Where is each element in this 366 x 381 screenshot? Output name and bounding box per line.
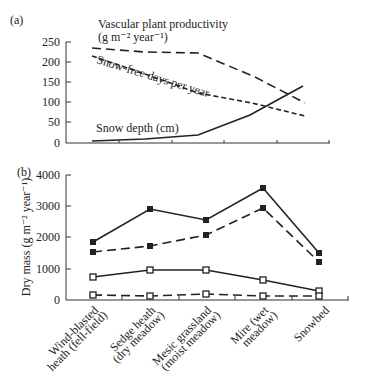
y-tick-label: 0: [54, 136, 60, 150]
y-tick-label: 4000: [36, 168, 60, 182]
annotation-vascular-productivity-units: (g m⁻² year⁻¹): [98, 30, 168, 44]
panel-a-y-tick-labels: 250 200 150 100 50 0: [42, 35, 60, 150]
y-tick-label: 1000: [36, 262, 60, 276]
series-dashed-filled-markers: [90, 205, 322, 265]
y-tick-label: 2000: [36, 230, 60, 244]
figure: (a) 250 200 150 100 50 0: [0, 0, 366, 381]
panel-b-y-axis-label: Dry mass (g m⁻² year⁻¹): [19, 178, 33, 297]
y-tick-label: 150: [42, 75, 60, 89]
y-tick-label: 3000: [36, 199, 60, 213]
panel-a: (a) 250 200 150 100 50 0: [10, 13, 330, 150]
y-tick-label: 250: [42, 35, 60, 49]
y-tick-label: 50: [48, 115, 60, 129]
annotation-snow-free-days: Snow-free days per year: [95, 52, 211, 100]
panel-a-label: (a): [10, 13, 23, 27]
panel-b-x-ticks: [122, 296, 348, 300]
y-tick-label: 0: [54, 293, 60, 307]
category-label: Snowbed: [291, 303, 332, 344]
panel-b-y-ticks: [66, 175, 71, 269]
y-tick-label: 100: [42, 95, 60, 109]
series-solid-filled-markers: [90, 185, 322, 256]
x-category-labels: Wind-blasted heath (fell-field) Sedge he…: [44, 303, 332, 374]
panel-b-label: (b): [17, 165, 31, 179]
annotation-snow-depth: Snow depth (cm): [96, 121, 179, 135]
panel-a-y-ticks: [66, 42, 71, 122]
panel-b-y-tick-labels: 4000 3000 2000 1000 0: [36, 168, 60, 307]
series-solid-open-markers: [90, 267, 322, 294]
y-tick-label: 200: [42, 55, 60, 69]
annotation-vascular-productivity: Vascular plant productivity: [98, 17, 228, 31]
panel-b: (b) 4000 3000 2000 1000 0 Dry mass (g m⁻…: [17, 165, 349, 374]
